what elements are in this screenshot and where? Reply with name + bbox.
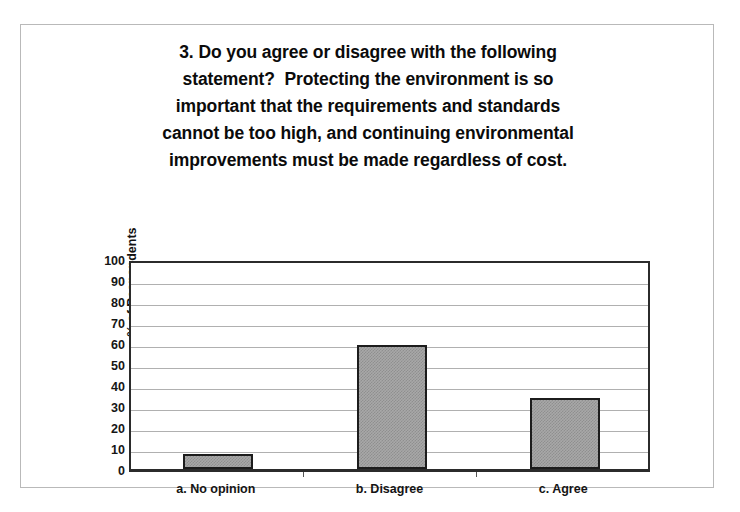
y-axis-tick-label: 20	[87, 423, 125, 435]
x-axis-line	[129, 471, 650, 472]
bar-chart: % of Respondents 1009080706050403020100 …	[43, 220, 693, 478]
y-axis-tick-label: 40	[87, 381, 125, 393]
y-axis-tick-label: 60	[87, 339, 125, 351]
scanned-page: 3. Do you agree or disagree with the fol…	[0, 0, 740, 512]
y-axis-tick-label: 100	[87, 255, 125, 267]
y-axis-tick-label: 10	[87, 444, 125, 456]
y-axis-tick-label: 50	[87, 360, 125, 372]
bar	[183, 454, 253, 469]
y-axis-tick-label: 0	[87, 465, 125, 477]
y-axis-tick-label: 30	[87, 402, 125, 414]
chart-title-line-4: cannot be too high, and continuing envir…	[57, 120, 679, 147]
chart-title: 3. Do you agree or disagree with the fol…	[57, 39, 679, 174]
chart-title-line-2: statement? Protecting the environment is…	[57, 66, 679, 93]
chart-title-line-1: 3. Do you agree or disagree with the fol…	[57, 39, 679, 66]
y-axis-tick-label: 70	[87, 318, 125, 330]
bar	[357, 345, 427, 469]
bar-series	[131, 263, 648, 469]
x-axis-category-label: a. No opinion	[129, 482, 303, 496]
x-axis-category-labels: a. No opinionb. Disagreec. Agree	[129, 482, 650, 502]
x-axis-category-label: c. Agree	[476, 482, 650, 496]
y-axis-tick-labels: 1009080706050403020100	[87, 261, 125, 471]
x-axis-tick	[476, 472, 477, 477]
page-border-frame: 3. Do you agree or disagree with the fol…	[20, 24, 714, 488]
x-axis-tick	[303, 472, 304, 477]
bar	[530, 398, 600, 469]
plot-area	[129, 261, 650, 471]
y-axis-tick-label: 90	[87, 276, 125, 288]
chart-title-line-3: important that the requirements and stan…	[57, 93, 679, 120]
y-axis-tick-label: 80	[87, 297, 125, 309]
x-axis-category-label: b. Disagree	[303, 482, 477, 496]
chart-title-line-5: improvements must be made regardless of …	[57, 147, 679, 174]
